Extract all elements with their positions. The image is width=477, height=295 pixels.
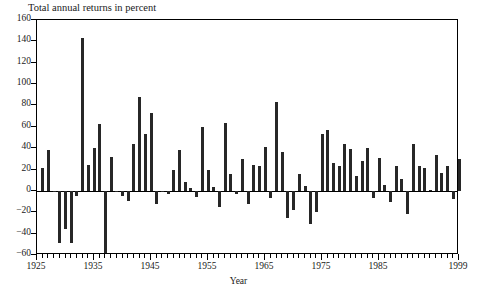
bar — [104, 191, 107, 253]
bar — [189, 188, 192, 191]
bar — [70, 191, 73, 243]
y-axis-tick-label: −40 — [3, 228, 31, 238]
bar — [423, 168, 426, 190]
bar — [298, 174, 301, 191]
bar — [218, 191, 221, 207]
x-axis-tick-label: 1965 — [244, 261, 284, 272]
bar — [321, 134, 324, 191]
x-axis-major-tick — [93, 254, 94, 260]
bar — [207, 170, 210, 191]
x-axis-minor-tick — [213, 254, 214, 258]
x-axis-minor-tick — [236, 254, 237, 258]
x-axis-minor-tick — [435, 254, 436, 258]
x-axis-major-tick — [36, 254, 37, 260]
bar — [229, 174, 232, 191]
bar — [138, 97, 141, 191]
y-axis-tick-label: −60 — [3, 249, 31, 259]
x-axis-minor-tick — [218, 254, 219, 258]
bar — [195, 191, 198, 197]
bar — [286, 191, 289, 218]
bar — [355, 176, 358, 191]
x-axis-tick-label: 1935 — [73, 261, 113, 272]
bar — [258, 166, 261, 191]
x-axis-minor-tick — [258, 254, 259, 258]
x-axis-minor-tick — [412, 254, 413, 258]
bar — [201, 127, 204, 191]
x-axis-minor-tick — [367, 254, 368, 258]
x-axis-minor-tick — [310, 254, 311, 258]
x-axis-minor-tick — [161, 254, 162, 258]
bar — [343, 144, 346, 191]
bar — [75, 191, 78, 196]
bar — [64, 191, 67, 229]
y-axis-tick-label: 80 — [3, 99, 31, 109]
bar — [389, 191, 392, 202]
x-axis-minor-tick — [338, 254, 339, 258]
bar — [115, 191, 118, 192]
x-axis-minor-tick — [384, 254, 385, 258]
x-axis-major-tick — [458, 254, 459, 260]
x-axis-minor-tick — [122, 254, 123, 258]
x-axis-minor-tick — [144, 254, 145, 258]
x-axis-minor-tick — [241, 254, 242, 258]
bar — [81, 38, 84, 191]
bar — [47, 150, 50, 191]
x-axis-minor-tick — [344, 254, 345, 258]
bar — [178, 150, 181, 191]
bar — [224, 123, 227, 191]
x-axis-minor-tick — [407, 254, 408, 258]
bar — [440, 173, 443, 191]
x-axis-minor-tick — [116, 254, 117, 258]
x-axis-minor-tick — [179, 254, 180, 258]
x-axis-tick-label: 1985 — [358, 261, 398, 272]
x-axis-minor-tick — [429, 254, 430, 258]
bar — [338, 166, 341, 191]
x-axis-minor-tick — [390, 254, 391, 258]
bar — [235, 191, 238, 194]
x-axis-major-tick — [150, 254, 151, 260]
x-axis-minor-tick — [224, 254, 225, 258]
bar — [269, 191, 272, 198]
bar — [332, 163, 335, 191]
x-axis-tick-label: 1925 — [16, 261, 56, 272]
x-axis-minor-tick — [230, 254, 231, 258]
bar — [292, 191, 295, 210]
y-axis-tick-label: 100 — [3, 78, 31, 88]
x-axis-minor-tick — [304, 254, 305, 258]
x-axis-tick-label: 1999 — [438, 261, 477, 272]
bar — [252, 165, 255, 191]
x-axis-minor-tick — [173, 254, 174, 258]
x-axis-minor-tick — [104, 254, 105, 258]
bar — [144, 134, 147, 191]
x-axis-minor-tick — [110, 254, 111, 258]
bar — [247, 191, 250, 204]
x-axis-tick-label: 1975 — [301, 261, 341, 272]
bar — [446, 166, 449, 191]
x-axis-major-tick — [207, 254, 208, 260]
bar — [184, 182, 187, 191]
bar — [275, 102, 278, 191]
bar — [167, 191, 170, 194]
x-axis-minor-tick — [42, 254, 43, 258]
chart-title: Total annual returns in percent — [28, 1, 156, 14]
y-axis-tick-label: 120 — [3, 57, 31, 67]
bar — [150, 113, 153, 191]
x-axis-minor-tick — [53, 254, 54, 258]
x-axis-minor-tick — [156, 254, 157, 258]
x-axis-minor-tick — [65, 254, 66, 258]
bar — [110, 157, 113, 191]
x-axis-minor-tick — [190, 254, 191, 258]
bar — [366, 148, 369, 191]
x-axis-minor-tick — [270, 254, 271, 258]
bar — [304, 186, 307, 191]
x-axis-minor-tick — [276, 254, 277, 258]
bar — [212, 187, 215, 191]
bar — [93, 148, 96, 191]
x-axis-minor-tick — [287, 254, 288, 258]
x-axis-minor-tick — [441, 254, 442, 258]
bar — [435, 155, 438, 191]
y-axis-tick-label: 160 — [3, 14, 31, 24]
bar — [161, 191, 164, 192]
bar — [412, 144, 415, 191]
bar — [378, 158, 381, 191]
